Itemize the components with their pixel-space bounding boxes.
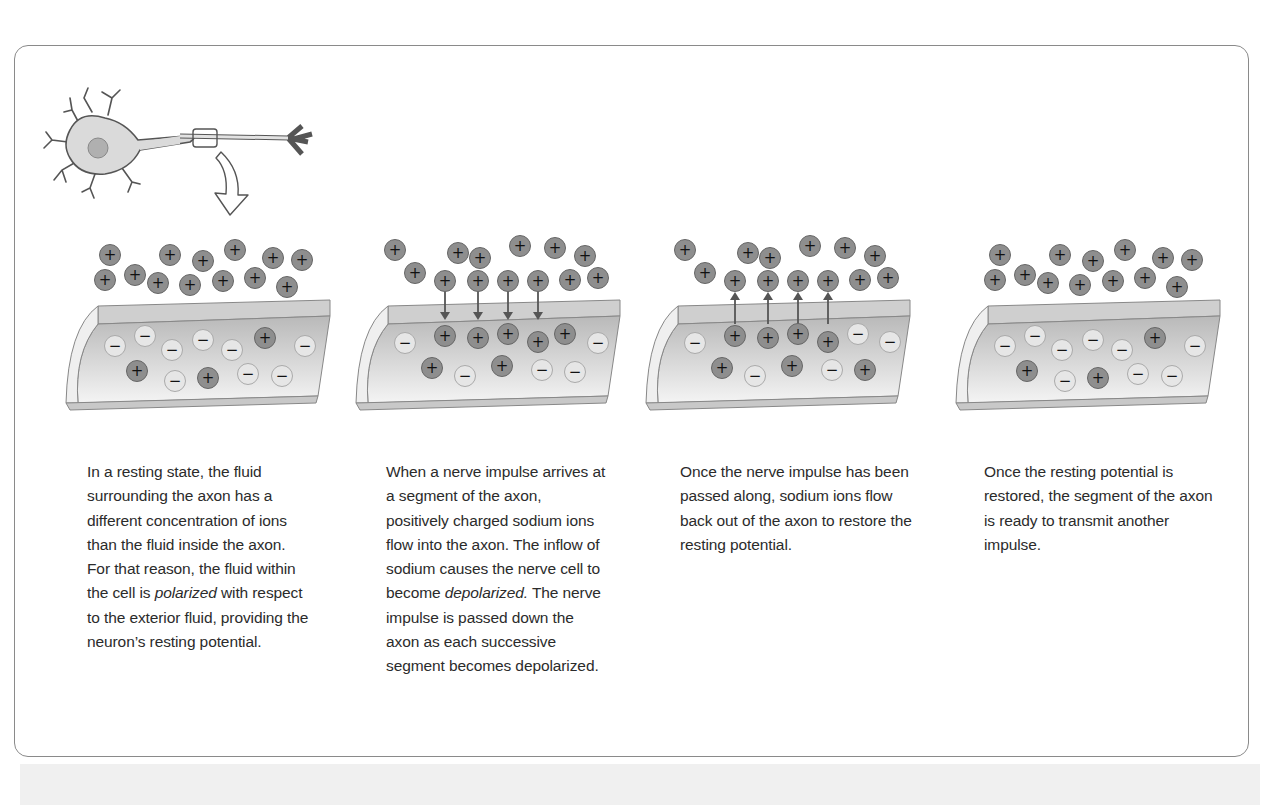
svg-text:+: + (792, 325, 805, 343)
positive-ion-icon: + (545, 238, 566, 259)
svg-text:+: + (129, 266, 142, 284)
positive-ion-icon: + (878, 268, 899, 289)
positive-ion-icon: + (255, 328, 276, 349)
positive-ion-icon: + (782, 356, 803, 377)
positive-ion-icon: + (1115, 240, 1136, 261)
svg-text:+: + (564, 271, 577, 289)
svg-text:+: + (716, 359, 729, 377)
svg-text:+: + (549, 239, 562, 257)
negative-ion-icon: − (880, 332, 901, 353)
svg-text:−: − (1056, 341, 1069, 359)
svg-text:−: − (569, 363, 582, 381)
negative-ion-icon: − (272, 366, 293, 387)
svg-text:+: + (1107, 272, 1120, 290)
svg-text:−: − (689, 334, 702, 352)
caption-text: In a resting state, the fluid surroundin… (87, 463, 296, 601)
svg-text:−: − (276, 367, 289, 385)
negative-ion-icon: − (395, 333, 416, 354)
negative-ion-icon: − (105, 336, 126, 357)
negative-ion-icon: − (565, 362, 586, 383)
svg-text:+: + (472, 329, 485, 347)
positive-ion-icon: + (1017, 361, 1038, 382)
positive-ion-icon: + (725, 271, 746, 292)
positive-ion-icon: + (225, 240, 246, 261)
svg-text:+: + (104, 246, 117, 264)
negative-ion-icon: − (685, 333, 706, 354)
negative-ion-icon: − (222, 340, 243, 361)
svg-text:+: + (1019, 266, 1032, 284)
svg-text:+: + (514, 237, 527, 255)
positive-ion-icon: + (555, 324, 576, 345)
svg-text:−: − (1029, 327, 1042, 345)
positive-ion-icon: + (758, 328, 779, 349)
svg-text:+: + (1021, 362, 1034, 380)
negative-ion-icon: − (193, 330, 214, 351)
svg-text:+: + (994, 246, 1007, 264)
svg-text:+: + (202, 369, 215, 387)
positive-ion-icon: + (435, 271, 456, 292)
svg-text:+: + (839, 239, 852, 257)
positive-ion-icon: + (760, 248, 781, 269)
positive-ion-icon: + (498, 324, 519, 345)
svg-text:+: + (786, 357, 799, 375)
svg-text:−: − (399, 334, 412, 352)
caption-resting: In a resting state, the fluid surroundin… (87, 460, 312, 654)
svg-text:+: + (729, 327, 742, 345)
positive-ion-icon: + (1103, 271, 1124, 292)
negative-ion-icon: − (165, 371, 186, 392)
svg-text:+: + (1074, 276, 1087, 294)
svg-text:+: + (217, 272, 230, 290)
svg-text:−: − (826, 361, 839, 379)
positive-ion-icon: + (528, 332, 549, 353)
positive-ion-icon: + (292, 250, 313, 271)
positive-ion-icon: + (180, 275, 201, 296)
positive-ion-icon: + (1015, 265, 1036, 286)
caption-restored: Once the resting potential is restored, … (984, 460, 1214, 557)
svg-text:+: + (1119, 241, 1132, 259)
positive-ion-icon: + (1038, 273, 1059, 294)
positive-ion-icon: + (468, 271, 489, 292)
svg-text:−: − (242, 365, 255, 383)
svg-text:+: + (882, 269, 895, 287)
positive-ion-icon: + (100, 245, 121, 266)
svg-text:−: − (1059, 372, 1072, 390)
svg-text:−: − (999, 337, 1012, 355)
positive-ion-icon: + (855, 360, 876, 381)
svg-text:+: + (502, 272, 515, 290)
negative-ion-icon: − (532, 360, 553, 381)
negative-ion-icon: − (1055, 371, 1076, 392)
positive-ion-icon: + (498, 271, 519, 292)
svg-text:−: − (749, 367, 762, 385)
positive-ion-icon: + (1050, 245, 1071, 266)
positive-ion-icon: + (1145, 328, 1166, 349)
svg-text:+: + (1092, 369, 1105, 387)
svg-text:+: + (452, 244, 465, 262)
positive-ion-icon: + (985, 270, 1006, 291)
svg-text:−: − (139, 327, 152, 345)
negative-ion-icon: − (1052, 340, 1073, 361)
svg-text:−: − (1116, 341, 1129, 359)
svg-text:+: + (859, 361, 872, 379)
arrow-up-icon (823, 292, 833, 300)
svg-text:−: − (852, 325, 865, 343)
axon-segment-resting-diagram: +++++++++++++−−−−−+−+−+−− (60, 228, 350, 428)
positive-ion-icon: + (435, 326, 456, 347)
svg-text:+: + (296, 251, 309, 269)
svg-text:−: − (169, 372, 182, 390)
svg-text:−: − (166, 341, 179, 359)
positive-ion-icon: + (850, 270, 871, 291)
svg-text:−: − (226, 341, 239, 359)
caption-emphasis-polarized: polarized (155, 584, 217, 601)
svg-text:+: + (1054, 246, 1067, 264)
positive-ion-icon: + (835, 238, 856, 259)
negative-ion-icon: − (135, 326, 156, 347)
svg-text:+: + (164, 246, 177, 264)
positive-ion-icon: + (528, 271, 549, 292)
svg-text:−: − (1132, 365, 1145, 383)
axon-segment-restored-diagram: +++++++++++++−−−−−+−+−+−− (950, 228, 1240, 428)
caption-text: When a nerve impulse arrives at a segmen… (386, 463, 605, 601)
svg-text:+: + (869, 247, 882, 265)
svg-text:+: + (99, 271, 112, 289)
positive-ion-icon: + (510, 236, 531, 257)
negative-ion-icon: − (745, 366, 766, 387)
